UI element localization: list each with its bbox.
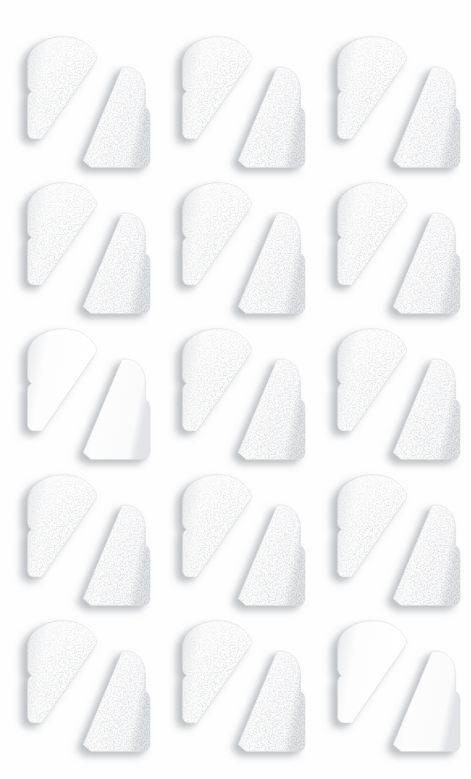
bread-half-right <box>230 206 312 323</box>
bread-half-right <box>75 206 157 323</box>
bread-half-right <box>75 60 157 177</box>
bread-grid-photograph <box>0 0 471 779</box>
bread-slice-pair <box>175 179 325 321</box>
bread-slice-pair <box>20 471 170 613</box>
bread-half-right <box>385 498 467 615</box>
bread-slice-pair <box>330 471 471 613</box>
bread-slice-pair <box>20 325 170 467</box>
bread-half-right <box>385 352 467 469</box>
bread-slice-pair <box>330 33 471 175</box>
bread-slice-pair <box>330 325 471 467</box>
bread-slice-pair <box>330 617 471 759</box>
bread-slice-pair <box>175 33 325 175</box>
bread-half-right <box>385 60 467 177</box>
bread-slice-pair <box>175 325 325 467</box>
bread-half-right <box>230 60 312 177</box>
bread-slice-pair <box>175 471 325 613</box>
bread-half-right <box>230 498 312 615</box>
bread-half-right <box>75 498 157 615</box>
bread-half-right <box>385 206 467 323</box>
bread-slice-pair <box>175 617 325 759</box>
bread-half-right <box>230 644 312 761</box>
bread-slice-pair <box>20 179 170 321</box>
bread-half-right <box>230 352 312 469</box>
bread-slice-pair <box>20 617 170 759</box>
bread-slice-pair <box>20 33 170 175</box>
bread-half-right <box>75 644 157 761</box>
bread-half-right <box>385 644 467 761</box>
bread-half-right <box>75 352 157 469</box>
bread-slice-pair <box>330 179 471 321</box>
